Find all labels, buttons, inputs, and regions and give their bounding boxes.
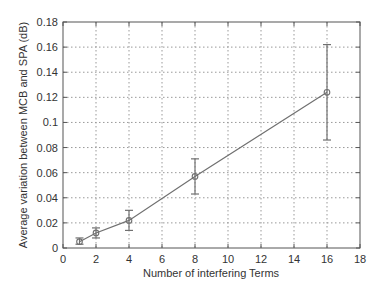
- x-tick-label: 14: [288, 253, 300, 265]
- x-tick-label: 16: [321, 253, 333, 265]
- y-tick-label: 0.18: [37, 16, 58, 28]
- plot-area-frame: [63, 22, 360, 248]
- x-tick-label: 18: [354, 253, 366, 265]
- chart: 02468101214161800.020.040.060.080.10.120…: [0, 0, 385, 293]
- x-tick-label: 4: [126, 253, 132, 265]
- y-tick-label: 0: [52, 242, 58, 254]
- x-tick-label: 8: [192, 253, 198, 265]
- x-tick-label: 2: [93, 253, 99, 265]
- y-tick-label: 0.14: [37, 66, 58, 78]
- y-tick-label: 0.02: [37, 217, 58, 229]
- data-series: [76, 45, 332, 245]
- y-tick-label: 0.04: [37, 192, 58, 204]
- axis-ticks: 02468101214161800.020.040.060.080.10.120…: [37, 16, 367, 265]
- y-tick-label: 0.16: [37, 41, 58, 53]
- x-axis-label: Number of interfering Terms: [143, 267, 280, 279]
- grid-lines: [63, 22, 360, 248]
- series-line: [80, 92, 328, 241]
- x-tick-label: 6: [159, 253, 165, 265]
- x-tick-label: 10: [222, 253, 234, 265]
- y-tick-label: 0.1: [43, 116, 58, 128]
- x-tick-label: 0: [60, 253, 66, 265]
- x-tick-label: 12: [255, 253, 267, 265]
- y-tick-label: 0.08: [37, 142, 58, 154]
- y-tick-label: 0.12: [37, 91, 58, 103]
- y-tick-label: 0.06: [37, 167, 58, 179]
- y-axis-label: Average variation between MCB and SPA (d…: [17, 22, 29, 248]
